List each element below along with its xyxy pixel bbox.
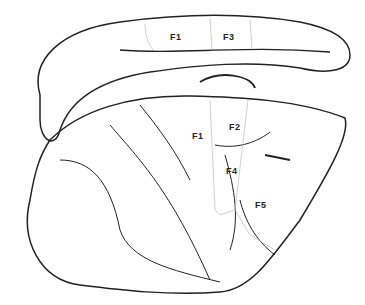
label-lat-f2: F2 — [229, 122, 241, 132]
label-lat-f4: F4 — [226, 166, 238, 176]
lateral-hemisphere-outline — [27, 96, 345, 293]
brain-drawing — [0, 0, 365, 305]
label-lat-f5: F5 — [255, 200, 267, 210]
medial-hemisphere-outline — [38, 15, 350, 141]
label-lat-f1: F1 — [192, 131, 204, 141]
label-top-f1: F1 — [170, 32, 182, 42]
label-top-f3: F3 — [223, 32, 235, 42]
